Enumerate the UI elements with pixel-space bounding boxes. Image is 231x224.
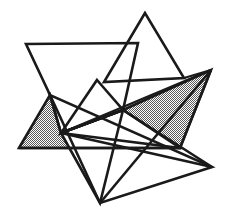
figure-canvas: Polyhedral compound wireframe Line drawi… bbox=[0, 0, 231, 224]
polyhedron-compound-figure bbox=[0, 0, 231, 224]
